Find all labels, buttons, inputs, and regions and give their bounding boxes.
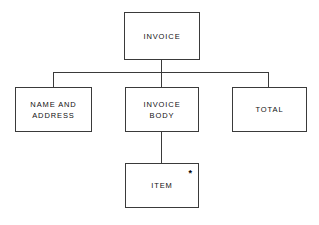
- connector-invoice-body-to-item: [161, 132, 162, 164]
- repetition-asterisk-icon: *: [188, 169, 192, 178]
- node-item-label-line1: ITEM: [151, 180, 173, 191]
- node-name-and-address-label-line1: NAME AND: [30, 99, 76, 110]
- node-name-and-address-label-line2: ADDRESS: [32, 110, 75, 121]
- diagram-canvas: INVOICE NAME AND ADDRESS INVOICE BODY TO…: [0, 0, 319, 225]
- node-invoice-body-label-line1: INVOICE: [143, 99, 180, 110]
- node-invoice-label-line1: INVOICE: [143, 31, 180, 42]
- connector-bus-to-total: [268, 72, 269, 88]
- node-item[interactable]: * ITEM: [125, 163, 199, 208]
- connector-bus-to-invoice-body: [161, 72, 162, 88]
- node-name-and-address[interactable]: NAME AND ADDRESS: [15, 87, 92, 132]
- connector-bus-to-name-and-address: [53, 72, 54, 88]
- node-total-label-line1: TOTAL: [256, 104, 284, 115]
- node-invoice-body[interactable]: INVOICE BODY: [125, 87, 199, 132]
- node-invoice[interactable]: INVOICE: [124, 12, 200, 60]
- node-invoice-body-label-line2: BODY: [150, 110, 175, 121]
- node-total[interactable]: TOTAL: [232, 87, 307, 132]
